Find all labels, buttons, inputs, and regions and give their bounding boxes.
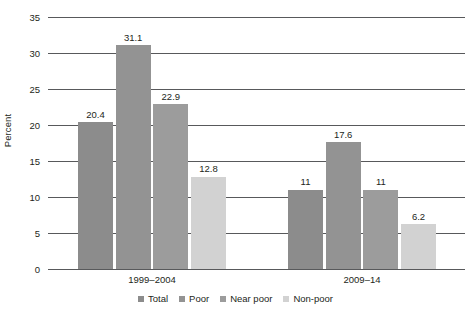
y-axis-tick-label: 25	[0, 84, 40, 95]
legend-item-poor[interactable]: Poor	[179, 293, 209, 304]
legend-label: Total	[148, 293, 168, 304]
legend-item-non-poor[interactable]: Non-poor	[283, 293, 333, 304]
y-axis-tick-label: 35	[0, 12, 40, 23]
bar-value-label: 31.1	[124, 32, 143, 43]
bar-near-poor-1999-2004[interactable]: 22.9	[153, 104, 188, 269]
bar-non-poor-1999-2004[interactable]: 12.8	[191, 177, 226, 269]
y-axis-tick-label: 5	[0, 228, 40, 239]
chart-legend: TotalPoorNear poorNon-poor	[0, 293, 471, 304]
bar-value-label: 17.6	[334, 129, 353, 140]
bar-total-2009-14[interactable]: 11	[288, 190, 323, 269]
legend-label: Poor	[189, 293, 209, 304]
bar-chart-figure: Percent 05101520253035 20.431.122.912.81…	[0, 0, 471, 319]
legend-label: Near poor	[230, 293, 272, 304]
y-axis-title: Percent	[2, 101, 13, 161]
bar-total-1999-2004[interactable]: 20.4	[78, 122, 113, 269]
bar-poor-1999-2004[interactable]: 31.1	[116, 45, 151, 269]
bar-value-label: 11	[301, 176, 311, 187]
bar-value-label: 22.9	[162, 91, 181, 102]
legend-swatch-icon	[283, 296, 289, 302]
plot-area: 20.431.122.912.81117.6116.2	[48, 17, 465, 269]
x-axis-category-label: 1999–2004	[128, 274, 176, 285]
gridline-25	[48, 89, 465, 90]
legend-swatch-icon	[179, 296, 185, 302]
legend-item-total[interactable]: Total	[138, 293, 168, 304]
bar-non-poor-2009-14[interactable]: 6.2	[401, 224, 436, 269]
y-axis-tick-label: 20	[0, 120, 40, 131]
x-axis-category-label: 2009–14	[344, 274, 381, 285]
legend-swatch-icon	[220, 296, 226, 302]
y-axis-tick-label: 10	[0, 192, 40, 203]
bar-value-label: 11	[376, 176, 386, 187]
bar-value-label: 12.8	[199, 163, 218, 174]
bar-poor-2009-14[interactable]: 17.6	[326, 142, 361, 269]
legend-swatch-icon	[138, 296, 144, 302]
y-axis-tick-label: 15	[0, 156, 40, 167]
bar-value-label: 20.4	[86, 109, 105, 120]
bar-near-poor-2009-14[interactable]: 11	[363, 190, 398, 269]
legend-item-near-poor[interactable]: Near poor	[220, 293, 272, 304]
legend-label: Non-poor	[293, 293, 333, 304]
y-axis-tick-label: 30	[0, 48, 40, 59]
gridline-30	[48, 53, 465, 54]
y-axis-tick-label: 0	[0, 264, 40, 275]
bar-value-label: 6.2	[412, 211, 425, 222]
gridline-35	[48, 17, 465, 18]
